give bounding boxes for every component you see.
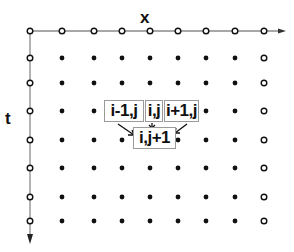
interior-node-icon (233, 219, 238, 224)
interior-node-icon (176, 138, 181, 143)
boundary-node-icon (261, 55, 267, 61)
interior-node-icon (60, 109, 65, 114)
interior-node-icon (176, 219, 181, 224)
interior-node-icon (92, 56, 97, 61)
interior-node-icon (60, 81, 65, 86)
interior-node-icon (233, 166, 238, 171)
interior-node-icon (204, 219, 209, 224)
boundary-node-icon (261, 137, 267, 143)
boundary-node-icon (27, 28, 33, 34)
interior-node-icon (204, 109, 209, 114)
interior-node-icon (204, 138, 209, 143)
boundary-node-icon (91, 28, 97, 34)
interior-node-icon (92, 219, 97, 224)
t-axis-label: t (5, 109, 11, 128)
x-axis-label: x (140, 8, 150, 27)
stencil-node-i-j: i,j (145, 100, 163, 122)
boundary-node-icon (27, 108, 33, 114)
interior-node-icon (92, 138, 97, 143)
interior-node-icon (92, 166, 97, 171)
interior-node-icon (148, 56, 153, 61)
interior-node-icon (204, 81, 209, 86)
boundary-node-icon (261, 28, 267, 34)
boundary-node-icon (27, 137, 33, 143)
grid-nodes (27, 28, 267, 224)
boundary-node-icon (232, 28, 238, 34)
interior-node-icon (233, 56, 238, 61)
interior-node-icon (92, 195, 97, 200)
t-axis-arrow-icon (27, 234, 33, 244)
interior-node-icon (176, 81, 181, 86)
arrow-from-left-icon (118, 124, 134, 135)
boundary-node-icon (59, 28, 65, 34)
boundary-node-icon (203, 28, 209, 34)
interior-node-icon (148, 195, 153, 200)
grid-diagram: x t (0, 0, 294, 252)
interior-node-icon (60, 56, 65, 61)
interior-node-icon (120, 138, 125, 143)
interior-node-icon (148, 81, 153, 86)
boundary-node-icon (261, 165, 267, 171)
interior-node-icon (92, 81, 97, 86)
interior-node-icon (176, 195, 181, 200)
boundary-node-icon (261, 108, 267, 114)
boundary-node-icon (175, 28, 181, 34)
boundary-node-icon (261, 80, 267, 86)
stencil-target-i-j-plus-1: i,j+1 (133, 127, 176, 149)
interior-node-icon (60, 219, 65, 224)
interior-node-icon (233, 109, 238, 114)
boundary-node-icon (27, 218, 33, 224)
interior-node-icon (204, 166, 209, 171)
boundary-node-icon (27, 55, 33, 61)
boundary-node-icon (27, 194, 33, 200)
boundary-node-icon (27, 80, 33, 86)
interior-node-icon (176, 56, 181, 61)
arrow-from-right-icon (175, 124, 187, 133)
boundary-node-icon (147, 28, 153, 34)
interior-node-icon (60, 138, 65, 143)
x-axis-arrow-icon (278, 29, 286, 34)
boundary-node-icon (27, 165, 33, 171)
interior-node-icon (120, 56, 125, 61)
boundary-node-icon (119, 28, 125, 34)
interior-node-icon (148, 219, 153, 224)
interior-node-icon (204, 195, 209, 200)
interior-node-icon (60, 166, 65, 171)
boundary-node-icon (261, 218, 267, 224)
interior-node-icon (176, 166, 181, 171)
boundary-node-icon (261, 194, 267, 200)
interior-node-icon (148, 166, 153, 171)
interior-node-icon (120, 166, 125, 171)
interior-node-icon (233, 81, 238, 86)
interior-node-icon (120, 195, 125, 200)
interior-node-icon (60, 195, 65, 200)
interior-node-icon (120, 219, 125, 224)
interior-node-icon (204, 56, 209, 61)
stencil-node-i-plus-1-j: i+1,j (164, 100, 199, 122)
interior-node-icon (92, 109, 97, 114)
interior-node-icon (233, 138, 238, 143)
interior-node-icon (120, 81, 125, 86)
interior-node-icon (233, 195, 238, 200)
stencil-node-i-minus-1-j: i-1,j (104, 100, 144, 122)
